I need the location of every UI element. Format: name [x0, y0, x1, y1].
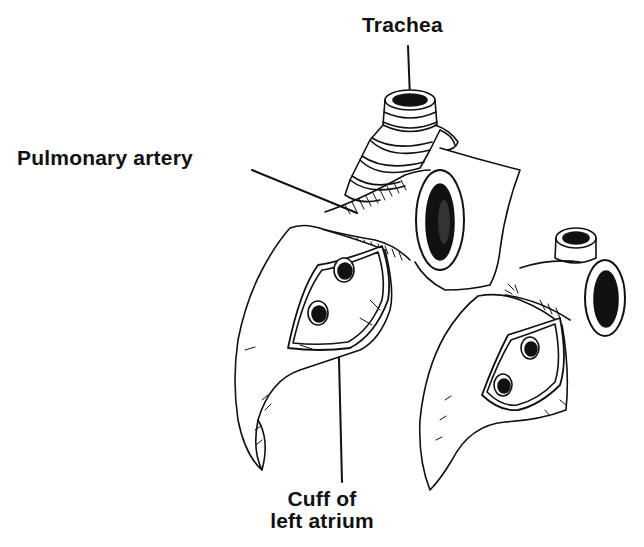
cuff-of-left-atrium-label: Cuff of left atrium: [252, 488, 392, 532]
illustration: [0, 0, 644, 547]
trachea-label: Trachea: [362, 14, 443, 36]
lung-transplant-diagram: Trachea Pulmonary artery Cuff of left at…: [0, 0, 644, 547]
pulmonary-artery-label: Pulmonary artery: [17, 147, 193, 169]
left-hilum-sheet: [235, 225, 392, 470]
cuff-label-line-1: Cuff of: [252, 488, 392, 510]
cuff-label-line-2: left atrium: [252, 510, 392, 532]
